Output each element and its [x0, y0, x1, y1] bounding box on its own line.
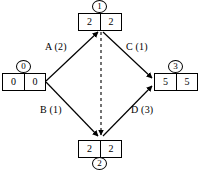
node-1-cell-1: 2: [100, 14, 121, 30]
node-box-2: 2 2: [78, 140, 122, 158]
edge-label-d: D (3): [131, 104, 153, 115]
node-box-1: 2 2: [78, 13, 122, 31]
node-3-cell-0: 5: [155, 74, 176, 90]
edge-label-a: A (2): [45, 41, 67, 52]
node-id-2: 2: [92, 157, 107, 170]
node-1-cell-0: 2: [79, 14, 100, 30]
node-id-0: 0: [16, 60, 31, 73]
node-box-3: 5 5: [154, 73, 198, 91]
node-2-cell-0: 2: [79, 141, 100, 157]
node-2-cell-1: 2: [100, 141, 121, 157]
edge-c-line: [103, 32, 152, 78]
node-0-cell-0: 0: [3, 74, 24, 90]
node-id-3: 3: [168, 60, 183, 73]
edge-label-b: B (1): [40, 104, 62, 115]
node-3-cell-1: 5: [176, 74, 197, 90]
node-0-cell-1: 0: [24, 74, 45, 90]
edge-a-line: [46, 32, 98, 81]
node-id-1: 1: [92, 0, 107, 13]
node-box-0: 0 0: [2, 73, 46, 91]
diagram-canvas: 1 2 2 0 0 0 3 5 5 2 2 2 A (2) C (1) B (1…: [0, 0, 198, 172]
edge-label-c: C (1): [126, 41, 148, 52]
